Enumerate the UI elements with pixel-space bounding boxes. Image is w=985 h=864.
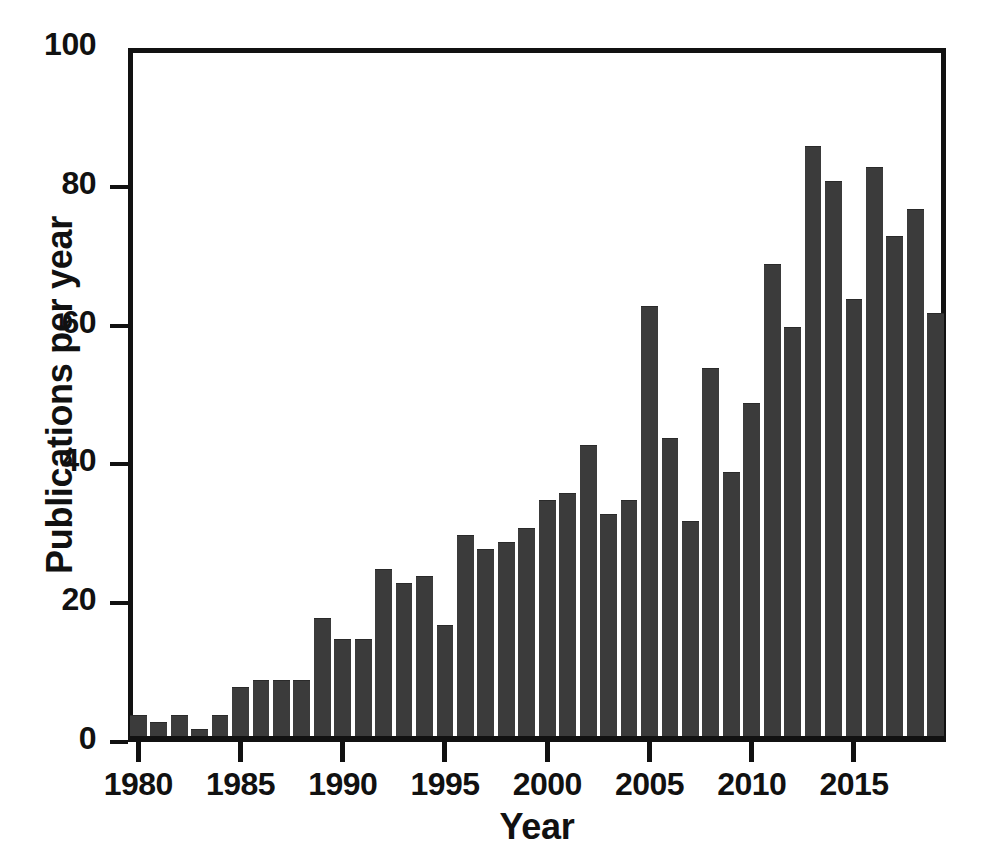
bar-1988 [293, 680, 310, 736]
x-tick-2010 [749, 742, 754, 762]
bar-2005 [641, 306, 658, 736]
bar-2014 [825, 181, 842, 736]
x-tick-2000 [545, 742, 550, 762]
bar-2002 [580, 445, 597, 736]
bar-1997 [477, 549, 494, 736]
bar-2016 [866, 167, 883, 736]
bar-1981 [150, 722, 167, 736]
bar-1989 [314, 618, 331, 736]
bar-1980 [130, 715, 147, 736]
bar-1993 [396, 583, 413, 736]
bar-2010 [743, 403, 760, 736]
bar-2015 [846, 299, 863, 736]
x-tick-1985 [238, 742, 243, 762]
bar-2003 [600, 514, 617, 736]
bar-1983 [191, 729, 208, 736]
bar-1996 [457, 535, 474, 736]
y-tick-80 [110, 185, 128, 189]
bar-2012 [784, 327, 801, 736]
bar-2008 [702, 368, 719, 736]
bar-1984 [212, 715, 229, 736]
y-tick-60 [110, 324, 128, 328]
y-tick-0 [110, 740, 128, 744]
x-tick-1980 [136, 742, 141, 762]
bar-1982 [171, 715, 188, 736]
bar-2011 [764, 264, 781, 736]
bar-2009 [723, 472, 740, 736]
x-tick-1990 [340, 742, 345, 762]
bar-1992 [375, 569, 392, 736]
x-tick-1995 [442, 742, 447, 762]
plot-area [128, 48, 946, 742]
bar-1998 [498, 542, 515, 736]
x-tick-2005 [647, 742, 652, 762]
bar-2004 [621, 500, 638, 736]
bar-1986 [253, 680, 270, 736]
bar-1991 [355, 639, 372, 736]
x-tick-2015 [851, 742, 856, 762]
y-axis-title: Publications per year [36, 48, 84, 742]
y-tick-40 [110, 462, 128, 466]
bar-2018 [907, 209, 924, 736]
y-tick-20 [110, 601, 128, 605]
x-tick-label-2015: 2015 [784, 766, 924, 803]
bar-1990 [334, 639, 351, 736]
bar-1999 [518, 528, 535, 736]
bar-2017 [886, 236, 903, 736]
bar-1987 [273, 680, 290, 736]
bar-1995 [437, 625, 454, 736]
bar-1994 [416, 576, 433, 736]
bar-series [133, 53, 941, 736]
x-axis-title: Year [128, 806, 946, 848]
bar-2000 [539, 500, 556, 736]
bar-1985 [232, 687, 249, 736]
bar-2006 [662, 438, 679, 736]
bar-2001 [559, 493, 576, 736]
publications-per-year-bar-chart: 020406080100 198019851990199520002005201… [0, 0, 985, 864]
bar-2013 [805, 146, 822, 736]
bar-2007 [682, 521, 699, 736]
bar-2019 [927, 313, 944, 736]
